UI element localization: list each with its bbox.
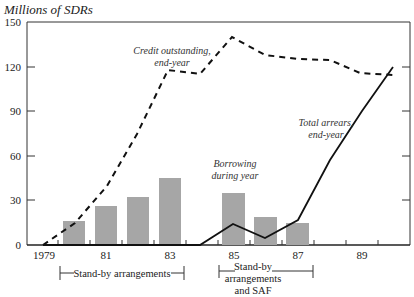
svg-text:end-year: end-year [154,57,190,68]
y-tick-30: 30 [10,194,22,206]
svg-text:Stand-by: Stand-by [234,261,273,272]
y-tick-150: 150 [5,16,22,28]
y-tick-120: 120 [5,61,22,73]
svg-text:Borrowing: Borrowing [214,158,257,169]
bar-1982 [127,197,149,245]
annotation-borrowing: Borrowing during year [212,158,259,181]
svg-text:during year: during year [212,170,259,181]
y-tick-90: 90 [10,105,22,117]
y-tick-labels: 150 120 90 60 30 0 [5,16,22,251]
x-tick-1979: 1979 [33,249,56,261]
bar-1986 [254,217,277,245]
x-tick-87: 87 [293,249,305,261]
y-tick-0: 0 [16,239,22,251]
chart: 150 120 90 60 30 0 1979 81 83 [0,0,414,297]
svg-text:Credit outstanding,: Credit outstanding, [133,45,210,56]
svg-text:and SAF: and SAF [234,285,271,296]
svg-text:arrangements: arrangements [225,273,282,284]
bar-1987 [286,223,309,245]
x-tick-labels: 1979 81 83 85 87 89 [33,249,368,261]
bar-1981 [95,206,117,245]
x-tick-83: 83 [165,249,177,261]
svg-text:Total arrears,: Total arrears, [299,117,354,128]
x-tick-89: 89 [357,249,369,261]
period-standby-saf: Stand-by arrangements and SAF [219,261,313,296]
svg-text:Stand-by arrangements: Stand-by arrangements [73,268,170,279]
bar-1985 [222,193,245,245]
x-tick-85: 85 [229,249,241,261]
svg-text:end-year: end-year [308,129,344,140]
annotation-credit: Credit outstanding, end-year [133,45,210,68]
x-tick-81: 81 [101,249,112,261]
bar-1983 [159,178,181,245]
plot-frame [27,22,410,245]
period-standby: Stand-by arrangements [60,266,184,280]
y-tick-60: 60 [10,150,22,162]
